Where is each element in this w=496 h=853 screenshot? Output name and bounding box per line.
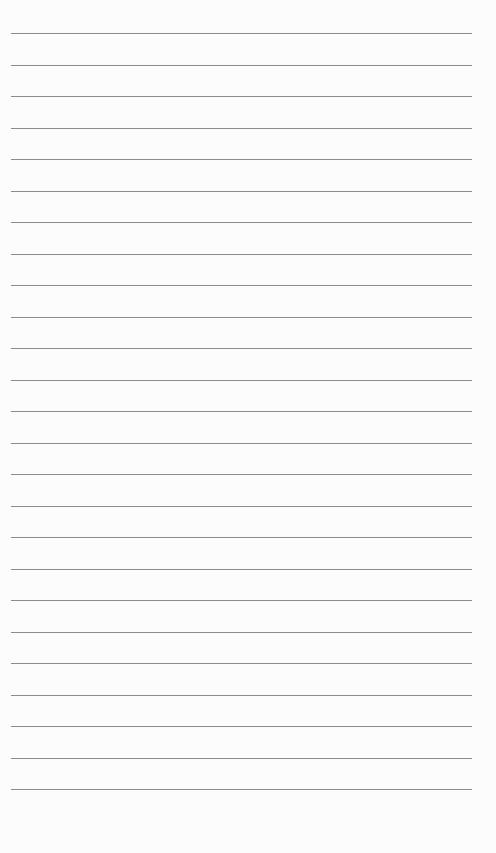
ruled-line: [11, 222, 472, 223]
ruled-line: [11, 65, 472, 66]
ruled-line: [11, 726, 472, 727]
ruled-line: [11, 128, 472, 129]
ruled-line: [11, 663, 472, 664]
ruled-line: [11, 569, 472, 570]
ruled-line: [11, 254, 472, 255]
ruled-line: [11, 191, 472, 192]
ruled-line: [11, 632, 472, 633]
ruled-line: [11, 348, 472, 349]
ruled-line: [11, 758, 472, 759]
ruled-line: [11, 33, 472, 34]
ruled-line: [11, 474, 472, 475]
ruled-line: [11, 506, 472, 507]
ruled-line: [11, 380, 472, 381]
ruled-line: [11, 600, 472, 601]
ruled-line: [11, 159, 472, 160]
ruled-line: [11, 537, 472, 538]
ruled-line: [11, 789, 472, 790]
lined-paper-page: [0, 0, 496, 853]
ruled-line: [11, 411, 472, 412]
ruled-line: [11, 285, 472, 286]
ruled-line: [11, 96, 472, 97]
ruled-line: [11, 443, 472, 444]
ruled-line: [11, 317, 472, 318]
ruled-line: [11, 695, 472, 696]
